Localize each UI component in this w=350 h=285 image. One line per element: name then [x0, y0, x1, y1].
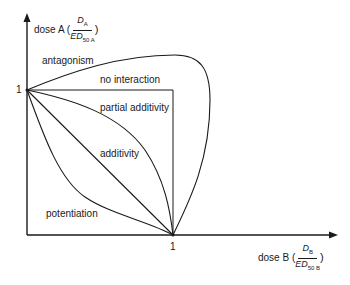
- y-tick-1: 1: [16, 84, 22, 95]
- label-no-interaction: no interaction: [100, 74, 160, 85]
- y-axis-label: dose A (DAED50 A): [34, 15, 98, 46]
- x-axis-arrow-icon: [329, 232, 338, 239]
- label-antagonism: antagonism: [42, 55, 94, 66]
- y-axis-arrow-icon: [24, 13, 31, 22]
- x-axis-label: dose B (DBED50 B): [258, 243, 324, 274]
- label-partial-additivity: partial additivity: [100, 102, 169, 113]
- label-potentiation: potentiation: [46, 208, 98, 219]
- label-additivity: additivity: [100, 148, 139, 159]
- x-tick-1: 1: [170, 241, 176, 252]
